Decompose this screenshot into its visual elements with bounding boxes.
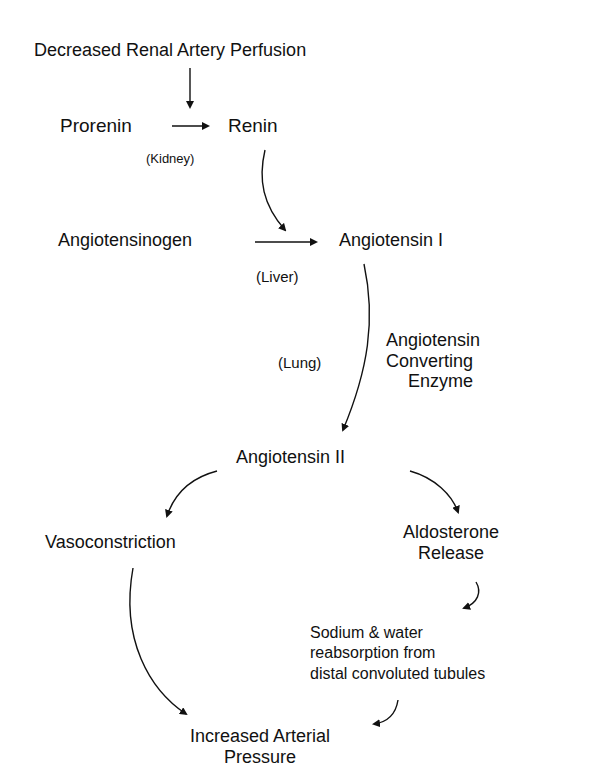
node-angiotensin-1: Angiotensin I [339,230,443,251]
node-angiotensinogen: Angiotensinogen [58,230,192,251]
arrow-sodium-to-pressure [374,700,398,724]
arrow-angiotensin1-to-angiotensin2 [343,264,369,430]
node-sodium-water-reabsorption: Sodium & water reabsorption from distal … [310,623,485,684]
node-line: Pressure [160,747,360,768]
node-prorenin: Prorenin [60,115,132,137]
node-line: Aldosterone [378,522,524,543]
enzyme-label-ace: Angiotensin Converting Enzyme [386,330,518,392]
node-line: Sodium & water [310,623,485,643]
arrow-aldosterone-to-sodium [464,582,479,608]
arrow-vasoconstriction-to-pressure [130,568,186,714]
node-vasoconstriction: Vasoconstriction [45,532,176,553]
node-renin: Renin [228,115,278,137]
enzyme-label-line: Converting [386,351,518,372]
node-line: Release [378,543,524,564]
node-line: distal convoluted tubules [310,664,485,684]
arrow-renin-to-angiotensin1 [262,150,285,230]
node-angiotensin-2: Angiotensin II [236,447,345,468]
site-label-kidney: (Kidney) [146,152,194,167]
arrow-angiotensin2-to-vasoconstriction [167,471,217,516]
site-label-lung: (Lung) [278,354,321,371]
node-line: reabsorption from [310,643,485,663]
node-decreased-renal-artery-perfusion: Decreased Renal Artery Perfusion [34,40,306,61]
arrow-angiotensin2-to-aldosterone [410,471,458,512]
node-line: Increased Arterial [160,726,360,747]
enzyme-label-line: Angiotensin [386,330,518,351]
enzyme-label-line: Enzyme [386,371,518,392]
site-label-liver: (Liver) [256,268,299,285]
node-aldosterone-release: Aldosterone Release [378,522,524,563]
node-increased-arterial-pressure: Increased Arterial Pressure [160,726,360,767]
